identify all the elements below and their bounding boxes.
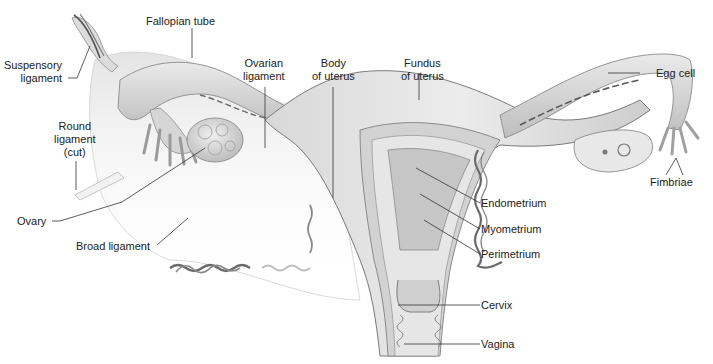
- uterus-anatomy-illustration: [0, 0, 713, 364]
- left-ovary-shape: [187, 118, 243, 162]
- label-ovary: Ovary: [17, 215, 46, 228]
- label-ovarian-ligament: Ovarian ligament: [243, 57, 285, 83]
- label-fundus-of-uterus: Fundus of uterus: [401, 57, 444, 83]
- label-line: Body: [312, 57, 355, 70]
- label-line: Ovarian: [243, 57, 285, 70]
- label-body-of-uterus: Body of uterus: [312, 57, 355, 83]
- label-line: ligament: [54, 133, 96, 146]
- label-myometrium: Myometrium: [481, 223, 542, 236]
- label-line: Fundus: [401, 57, 444, 70]
- label-cervix: Cervix: [481, 299, 512, 312]
- label-line: ligament: [243, 70, 285, 83]
- label-line: of uterus: [312, 70, 355, 83]
- label-fimbriae: Fimbriae: [650, 176, 693, 189]
- label-line: Round: [54, 120, 96, 133]
- label-fallopian-tube: Fallopian tube: [146, 15, 215, 28]
- label-perimetrium: Perimetrium: [481, 248, 540, 261]
- label-endometrium: Endometrium: [481, 197, 546, 210]
- label-broad-ligament: Broad ligament: [76, 240, 150, 253]
- label-line: (cut): [54, 146, 96, 159]
- right-ovary-shape: [574, 130, 653, 172]
- label-round-ligament: Round ligament (cut): [54, 120, 96, 159]
- label-egg-cell: Egg cell: [656, 67, 695, 80]
- label-line: ligament: [4, 72, 62, 85]
- label-line: of uterus: [401, 70, 444, 83]
- label-suspensory-ligament: Suspensory ligament: [4, 59, 62, 85]
- label-line: Suspensory: [4, 59, 62, 72]
- label-vagina: Vagina: [481, 338, 514, 351]
